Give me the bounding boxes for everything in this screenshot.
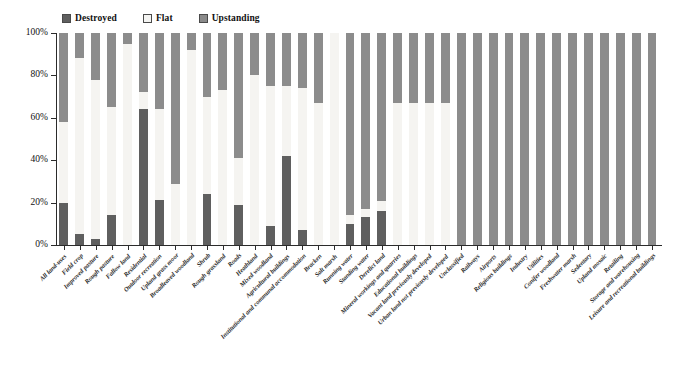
bar-segment-upstanding [505,33,514,245]
x-axis-tick [334,246,335,250]
x-axis-label: Religious buildings [472,252,513,293]
x-axis-label: Airports [477,252,497,272]
x-axis-tick [271,246,272,250]
legend-label-flat: Flat [156,14,173,23]
x-axis-tick [493,246,494,250]
x-axis-label: Utilities [525,252,545,272]
bar-segment-upstanding [425,33,434,103]
x-axis-tick [557,246,558,250]
y-axis-tick-label: 80% [0,69,48,79]
x-axis-tick [477,246,478,250]
x-axis-tick [318,246,319,250]
x-axis-label: Bracken [302,252,323,273]
bar-9 [203,33,212,245]
bar-segment-upstanding [568,33,577,245]
bar-21 [393,33,402,245]
bar-segment-flat [250,75,259,245]
bar-segment-upstanding [123,33,132,44]
bar-8 [187,33,196,245]
bar-segment-upstanding [250,33,259,75]
bar-segment-upstanding [441,33,450,103]
bar-segment-flat [282,86,291,156]
bar-segment-upstanding [361,33,370,209]
x-axis-tick [112,246,113,250]
bar-segment-flat [171,184,180,245]
y-axis-tick-label: 40% [0,154,48,164]
x-axis-label: Institutional and communal accommodation [219,252,307,340]
bar-10 [218,33,227,245]
x-axis-label: Rough pasture [83,252,115,284]
x-axis-label: Freshwater marsh [538,252,577,291]
x-axis-tick [636,246,637,250]
bar-segment-flat [218,90,227,245]
y-axis-tick-label: 0% [0,239,48,249]
bar-segment-destroyed [234,205,243,245]
bar-segment-destroyed [107,215,116,245]
legend-item-upstanding: Upstanding [199,14,260,23]
bar-segment-upstanding [203,33,212,97]
bar-segment-upstanding [59,33,68,122]
x-axis-tick [398,246,399,250]
bar-segment-destroyed [91,239,100,245]
x-axis-label: Improved pasture [62,252,100,290]
bar-segment-upstanding [520,33,529,245]
bar-segment-upstanding [314,33,323,103]
x-axis-label: Fallow land [104,252,131,279]
bar-segment-upstanding [489,33,498,245]
x-axis-label: Upland mosaic [575,252,608,285]
bar-segment-upstanding [377,33,386,200]
bar-segment-flat [203,97,212,195]
bar-segment-upstanding [107,33,116,107]
x-axis-tick [366,246,367,250]
bar-segment-upstanding [91,33,100,80]
x-axis-tick [191,246,192,250]
bar-segment-upstanding [600,33,609,245]
plot-area [56,33,660,245]
x-axis-tick [588,246,589,250]
x-axis-tick [414,246,415,250]
y-axis-tick-label: 20% [0,197,48,207]
bar-segment-upstanding [218,33,227,90]
bar-22 [409,33,418,245]
bar-segment-upstanding [346,33,355,215]
bar-segment-upstanding [584,33,593,245]
x-axis-label: Railways [459,252,481,274]
bar-segment-upstanding [632,33,641,245]
bar-segment-upstanding [155,33,164,109]
legend-swatch-destroyed [62,14,71,23]
bar-segment-destroyed [266,226,275,245]
bar-2 [91,33,100,245]
chart-figure: Destroyed Flat Upstanding 0%20%40%60%80%… [0,0,676,365]
bar-36 [632,33,641,245]
x-axis-tick [207,246,208,250]
bar-segment-flat [59,122,68,203]
x-axis-label: Derelict land [357,252,386,281]
bar-34 [600,33,609,245]
x-axis-tick [159,246,160,250]
x-axis-tick [143,246,144,250]
bar-segment-flat [107,107,116,215]
x-axis-tick [652,246,653,250]
bar-segment-upstanding [648,33,657,245]
bar-32 [568,33,577,245]
x-axis-tick [239,246,240,250]
bar-28 [505,33,514,245]
bar-segment-upstanding [266,33,275,86]
x-axis-tick [604,246,605,250]
x-axis-tick [382,246,383,250]
bar-segment-destroyed [282,156,291,245]
bar-27 [489,33,498,245]
bar-segment-flat [266,86,275,226]
bar-1 [75,33,84,245]
x-axis-tick [525,246,526,250]
x-axis-label: Urban land not previously developed [376,252,449,325]
bar-segment-flat [377,201,386,212]
bar-segment-upstanding [298,33,307,88]
bar-13 [266,33,275,245]
legend-item-flat: Flat [143,14,173,23]
bar-segment-flat [441,103,450,245]
x-axis-label: All land-uses [38,252,67,281]
x-axis-tick [255,246,256,250]
bar-16 [314,33,323,245]
x-axis-label: Retailing [602,252,624,274]
